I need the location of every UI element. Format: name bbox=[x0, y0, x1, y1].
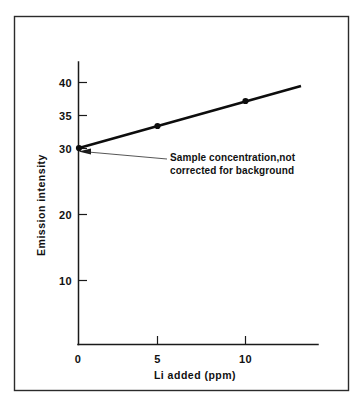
x-tick-label-0: 0 bbox=[75, 353, 82, 365]
x-axis-title: Li added (ppm) bbox=[154, 369, 236, 381]
y-tick-label-35: 35 bbox=[59, 110, 72, 122]
data-point-0ppm bbox=[76, 145, 82, 151]
x-axis-tick-labels: 0 5 10 bbox=[75, 353, 252, 365]
y-tick-label-30: 30 bbox=[59, 143, 72, 155]
y-axis-tick-labels: 40 35 30 20 10 bbox=[59, 77, 72, 287]
data-point-10ppm bbox=[242, 98, 248, 104]
series-line-segment bbox=[79, 86, 301, 148]
emission-intensity-chart: 40 35 30 20 10 0 5 10 Li added (ppm) Emi… bbox=[0, 0, 364, 405]
data-series-standard-addition bbox=[76, 86, 301, 151]
annotation-leader-line bbox=[88, 152, 167, 159]
y-axis-title: Emission intensity bbox=[35, 154, 47, 256]
y-tick-label-20: 20 bbox=[59, 209, 72, 221]
figure-border bbox=[15, 17, 349, 391]
sample-concentration-annotation: Sample concentration,not corrected for b… bbox=[79, 149, 296, 177]
y-tick-label-40: 40 bbox=[59, 77, 72, 89]
figure-container: 40 35 30 20 10 0 5 10 Li added (ppm) Emi… bbox=[0, 0, 364, 405]
x-axis-ticks bbox=[158, 336, 246, 345]
annotation-line-2: corrected for background bbox=[170, 165, 294, 176]
data-point-5ppm bbox=[154, 123, 160, 129]
y-axis-ticks bbox=[79, 83, 88, 281]
annotation-line-1: Sample concentration,not bbox=[170, 152, 296, 163]
x-tick-label-10: 10 bbox=[239, 353, 252, 365]
y-tick-label-10: 10 bbox=[59, 275, 72, 287]
x-tick-label-5: 5 bbox=[154, 353, 161, 365]
